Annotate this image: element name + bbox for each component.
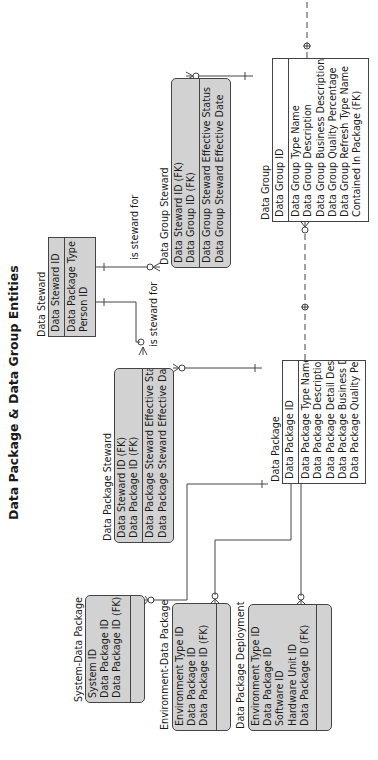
entity-name: Data Steward <box>37 272 47 337</box>
attribute: Data Package Steward Effective Date <box>157 369 169 538</box>
attribute: Contained In Package (FK) <box>351 59 363 217</box>
key-attribute: Environment Type ID <box>250 605 262 726</box>
attribute: Data Package Type <box>66 238 78 332</box>
entity-name: Data Package Steward <box>103 433 113 541</box>
attribute: Data Group Refresh Type Name <box>339 59 351 217</box>
entity-name: Environment-Data Package <box>160 600 170 730</box>
key-attribute: System ID <box>87 596 99 698</box>
attribute: Data Group Steward Effective Date <box>214 79 226 263</box>
key-attribute: Data Package ID (FK) <box>128 369 140 538</box>
attribute: Data Group Steward Effective Status <box>201 79 213 263</box>
attribute: Data Package Quality Percentage <box>349 361 361 479</box>
entity-name: Data Group <box>261 165 271 220</box>
key-attribute: Data Steward ID (FK) <box>173 79 185 263</box>
key-attribute: Data Package ID <box>262 605 274 726</box>
entity-name: Data Package <box>271 416 281 482</box>
relationship-label-steward-group: is steward for <box>129 195 140 260</box>
attribute: Data Group Description <box>302 59 314 217</box>
key-attribute: Data Package ID <box>99 596 111 698</box>
attribute: Data Group Quality Percentage <box>327 59 339 217</box>
attribute: Data Group Business Description <box>315 59 327 217</box>
attribute: Data Group Type Name <box>290 59 302 217</box>
entity-name: System-Data Package <box>74 597 84 702</box>
attribute: Person ID <box>78 238 90 332</box>
attribute: Data Package Business Description <box>337 361 349 479</box>
relationship-label-steward-package: is steward for <box>148 282 159 347</box>
entity-name: Data Package Deployment <box>236 602 246 729</box>
key-attribute: Environment Type ID <box>174 604 186 726</box>
key-attribute: Data Package ID (FK) <box>111 596 123 698</box>
key-attribute: Data Package ID (FK) <box>198 604 210 726</box>
key-attribute: Data Package ID <box>284 361 296 479</box>
attribute: Data Package Description <box>312 361 324 479</box>
key-attribute: Hardware Unit ID <box>287 605 299 726</box>
key-attribute: Data Package ID <box>186 604 198 726</box>
key-attribute: Data Group ID <box>274 59 286 217</box>
er-diagram-canvas: Data Package & Data Group Entities <box>0 0 378 760</box>
key-attribute: Data Group ID (FK) <box>185 79 197 263</box>
entity-name: Data Group Steward <box>160 167 170 265</box>
key-attribute: Data Steward ID <box>50 238 62 332</box>
attribute: Data Package Steward Effective Status <box>144 369 156 538</box>
key-attribute: Data Package ID (FK) <box>299 605 311 726</box>
attribute: Data Package Type Name <box>300 361 312 479</box>
attribute: Data Package Detail Description <box>325 361 337 479</box>
key-attribute: Software ID <box>274 605 286 726</box>
key-attribute: Data Steward ID (FK) <box>116 369 128 538</box>
